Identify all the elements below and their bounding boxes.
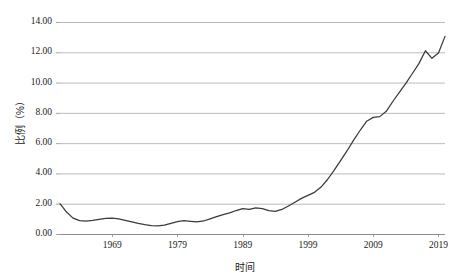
y-axis-tick-label: 14.00 [8,16,52,26]
x-axis-tick-label: 1979 [152,240,202,250]
x-axis-tick-label: 1989 [218,240,268,250]
y-axis-tick-label: 10.00 [8,77,52,87]
x-axis-tick-label: 2009 [348,240,398,250]
series-line-ratio [60,36,445,225]
y-axis-tick-label: 12.00 [8,46,52,56]
y-axis-tick-label: 4.00 [8,167,52,177]
plot-area [0,0,456,279]
y-axis-tick-label: 2.00 [8,198,52,208]
y-axis-tick-label: 0.00 [8,228,52,238]
gridlines [56,23,445,238]
x-axis-tick-label: 1969 [87,240,137,250]
y-axis-title: 比例（%） [12,96,27,145]
x-axis-tick-label: 2019 [413,240,456,250]
x-axis-title: 时间 [185,259,305,274]
line-chart: 0.002.004.006.008.0010.0012.0014.00 1969… [0,0,456,279]
x-axis-tick-label: 1999 [283,240,333,250]
